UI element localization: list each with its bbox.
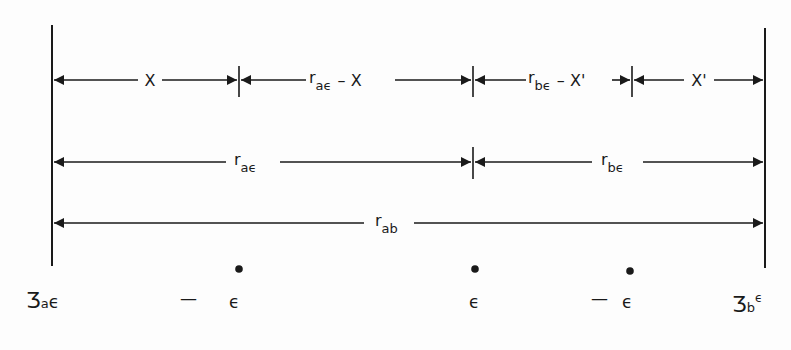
- epsilon-middle: ϵ: [469, 292, 479, 312]
- epsilon-1: ϵ: [229, 292, 239, 312]
- dimension-row-2: raϵ rbϵ: [54, 150, 763, 175]
- label-r-ae-minus-x: raϵ– X: [309, 68, 362, 93]
- dimension-row-3: rab: [54, 211, 763, 236]
- dimension-row-1: X raϵ– X rbϵ– X' X': [54, 68, 763, 93]
- charge-label-left: Ʒaϵ: [26, 288, 59, 313]
- dimension-diagram: X raϵ– X rbϵ– X' X' raϵ rbϵ rab Ʒaϵ — ϵ …: [0, 0, 791, 350]
- charge-dot-right: [626, 267, 634, 275]
- label-r-ae: raϵ: [234, 150, 257, 175]
- label-r-be-minus-x-prime: rbϵ– X': [528, 68, 585, 93]
- charge-dot-left: [235, 265, 243, 273]
- minus-sign-2: —: [591, 288, 608, 308]
- charge-dot-middle: [471, 265, 479, 273]
- charge-label-right: Ʒbϵ: [732, 291, 762, 317]
- minus-sign-1: —: [180, 288, 197, 308]
- label-r-be: rbϵ: [601, 150, 624, 175]
- epsilon-2: ϵ: [622, 292, 632, 312]
- label-x-prime: X': [691, 71, 706, 90]
- label-r-ab: rab: [375, 211, 398, 236]
- label-x: X: [145, 71, 156, 90]
